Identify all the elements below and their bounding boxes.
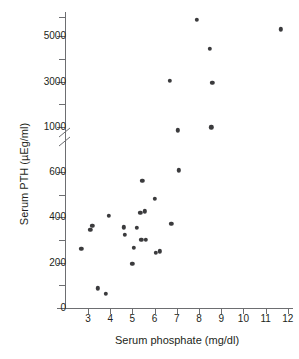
x-axis-title: Serum phosphate (mg/dl) xyxy=(55,334,299,346)
data-point xyxy=(209,125,213,129)
data-point xyxy=(142,209,146,213)
data-point xyxy=(121,225,125,229)
data-point xyxy=(195,18,199,22)
data-point xyxy=(208,46,212,50)
x-axis-tick-label: 12 xyxy=(276,314,299,324)
data-point xyxy=(88,228,92,232)
x-axis-tick-label: 9 xyxy=(209,314,233,324)
data-point xyxy=(122,232,126,236)
y-axis-tick xyxy=(59,240,65,241)
x-axis-tick-label: 5 xyxy=(120,314,144,324)
data-point xyxy=(90,224,94,228)
y-axis-tick-label: 600 xyxy=(49,167,66,177)
data-point xyxy=(104,291,108,295)
data-point xyxy=(176,128,180,132)
y-axis-tick xyxy=(59,285,65,286)
y-axis-tick xyxy=(59,59,65,60)
data-point xyxy=(96,286,100,290)
plot-area: 0200400600100030005000 3456789101112 Ser… xyxy=(0,0,299,359)
data-point xyxy=(210,81,214,85)
y-axis-tick-label: 200 xyxy=(49,258,66,268)
y-axis-tick-label: 400 xyxy=(49,212,66,222)
data-point xyxy=(158,249,162,253)
data-point xyxy=(177,168,181,172)
x-axis-tick-label: 8 xyxy=(187,314,211,324)
data-point xyxy=(79,246,83,250)
data-point xyxy=(140,179,144,183)
data-point xyxy=(143,237,147,241)
data-point xyxy=(130,262,134,266)
x-axis-tick-label: 7 xyxy=(165,314,189,324)
x-axis-tick-label: 4 xyxy=(98,314,122,324)
scatter-plot-figure: 0200400600100030005000 3456789101112 Ser… xyxy=(0,0,299,359)
data-point xyxy=(168,79,172,83)
y-axis-tick xyxy=(59,195,65,196)
data-point xyxy=(107,213,111,217)
x-axis-line xyxy=(65,308,293,309)
data-point xyxy=(131,245,135,249)
data-point xyxy=(135,225,139,229)
y-axis-tick-label: 0 xyxy=(60,303,66,313)
axis-break-icon xyxy=(56,126,74,148)
x-axis-tick-label: 6 xyxy=(143,314,167,324)
x-axis-tick-label: 3 xyxy=(76,314,100,324)
x-axis-tick-label: 10 xyxy=(231,314,255,324)
y-axis-tick xyxy=(59,104,65,105)
data-point xyxy=(279,27,283,31)
y-axis-tick xyxy=(59,17,65,18)
y-axis-tick-label: 3000 xyxy=(44,77,66,87)
data-point xyxy=(169,222,173,226)
y-axis-title: Serum PTH (µEg/ml) xyxy=(18,54,30,294)
x-axis-tick-label: 11 xyxy=(254,314,278,324)
data-point xyxy=(152,197,156,201)
y-axis-tick-label: 5000 xyxy=(44,31,66,41)
